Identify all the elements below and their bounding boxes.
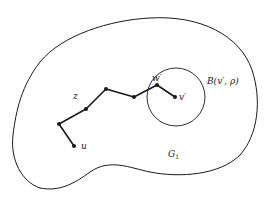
label-ball: B(v′, ρ): [206, 76, 239, 86]
region-g1-boundary: [13, 18, 258, 189]
vertex-v-prime: [173, 95, 177, 99]
vertex-w-prime: [155, 83, 159, 87]
label-v-prime: v′: [179, 92, 186, 102]
diagram-canvas: z u w′ v′ B(v′, ρ) G1: [0, 0, 267, 201]
vertex-u: [72, 144, 76, 148]
label-u: u: [81, 141, 87, 151]
label-region-main: G: [168, 149, 175, 159]
label-region: G1: [168, 149, 179, 160]
vertex-4: [132, 95, 136, 99]
vertex-2: [84, 107, 88, 111]
label-w-prime: w′: [152, 73, 162, 83]
label-z: z: [72, 91, 78, 101]
label-region-subscript: 1: [175, 153, 179, 160]
vertex-3: [104, 87, 108, 91]
vertex-1: [57, 122, 61, 126]
